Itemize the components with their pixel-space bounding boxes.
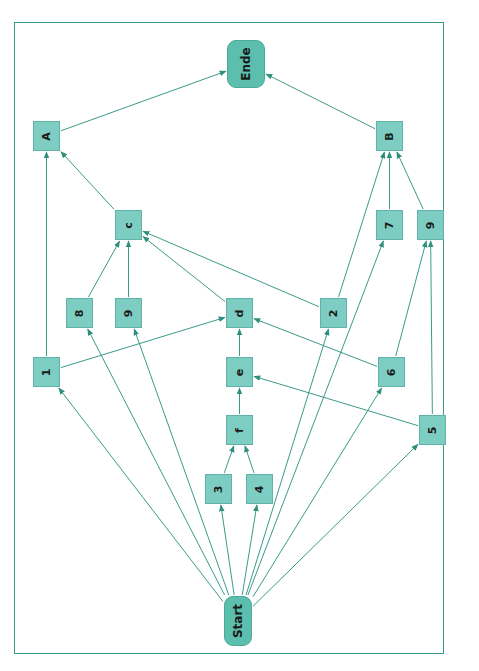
node-label: 9 [122,309,135,317]
edge-n2-to-c [143,231,319,307]
edge-start-to-n5 [253,444,418,606]
edge-start-to-n8 [88,329,225,595]
node-ende: Ende [227,40,265,88]
edge-d-to-c [143,236,225,301]
edge-B-to-ende [266,74,375,129]
edge-n3-to-f [224,446,234,473]
node-e: e [226,357,253,387]
node-n9: 9 [115,298,142,328]
node-n8: 8 [66,298,93,328]
node-n1: 1 [33,357,60,387]
node-label: 5 [426,426,439,434]
edge-n6-to-d [254,319,377,367]
node-c: c [115,210,142,240]
node-start: Start [224,596,252,646]
node-label: 6 [385,368,398,376]
node-n5: 5 [419,415,446,445]
edge-n6-to-n9top [396,241,427,356]
edge-n4-to-f [245,446,254,473]
node-B: B [376,121,403,151]
node-label: 9 [424,221,437,229]
node-label: f [233,428,246,433]
node-label: 2 [327,309,340,317]
node-label: 1 [40,368,53,376]
edge-n5-to-n9top [431,241,433,414]
edge-n8-to-c [88,241,119,297]
edge-start-to-n3 [221,505,234,595]
edge-start-to-n4 [242,505,257,595]
edge-n9top-to-B [397,152,423,209]
node-label: c [122,222,135,229]
node-label: Ende [239,47,253,80]
node-label: 7 [383,221,396,229]
node-label: 8 [73,309,86,317]
node-n9top: 9 [417,210,444,240]
node-label: e [233,368,246,375]
node-label: A [40,132,53,141]
edge-start-to-n9 [134,329,229,595]
node-d: d [226,298,253,328]
edge-c-to-A [61,152,114,210]
node-n7: 7 [376,210,403,240]
node-n2: 2 [320,298,347,328]
node-label: B [383,132,396,140]
edge-start-to-n1 [59,388,223,601]
node-label: d [233,309,246,317]
node-A: A [33,121,60,151]
edge-start-to-n2 [246,329,328,595]
edge-layer [0,0,479,671]
node-n4: 4 [246,474,273,504]
edge-A-to-ende [61,71,226,131]
node-n6: 6 [378,357,405,387]
node-label: 3 [212,485,225,493]
node-label: Start [231,604,245,638]
node-label: 4 [253,485,266,493]
node-f: f [226,415,253,445]
node-n3: 3 [205,474,232,504]
